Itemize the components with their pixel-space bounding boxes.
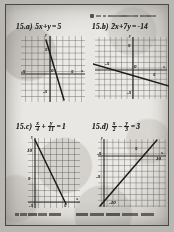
graph-15c-xtick-5: 5 — [64, 203, 67, 208]
equation-rhs: 5 — [58, 22, 62, 32]
fraction-y-over-11: y 11 — [48, 121, 56, 133]
graph-15c-ytick-10: 10 — [27, 148, 32, 153]
equation-rel: = — [52, 22, 56, 32]
problem-15c-equation: x 4 + y 11 = 1 — [35, 121, 66, 133]
equation-lhs: 2x+7y — [111, 22, 131, 32]
graph-15d-xtick-5: 5 — [135, 146, 138, 151]
equation-rel: = — [57, 122, 61, 132]
problem-15b: 15.b) 2x+7y = -14 — [92, 22, 170, 114]
fraction-denominator: 2 — [112, 126, 117, 132]
graph-15b-origin: 0 — [134, 64, 137, 69]
problem-15a-equation: 5x+y = 5 — [35, 22, 61, 32]
fraction-x-over-2: x 2 — [112, 121, 117, 133]
problem-15d: 15.d) x 2 − y 3 = 3 — [92, 121, 170, 219]
graph-15d-x-axis-label: x — [161, 151, 163, 156]
graph-15d-ytick-neg10: -10 — [109, 200, 116, 205]
graph-15a-ytick-5: 5 — [45, 47, 48, 52]
graph-15a: y x 5 -5 -5 5 0 — [19, 34, 87, 104]
worksheet-sheet: 15.a) 5x+y = 5 — [5, 4, 169, 226]
fraction-denominator: 3 — [124, 126, 129, 132]
graph-15c: y x 10 5 -5 5 — [26, 136, 82, 210]
graph-15d-xtick-neg5: -5 — [97, 151, 101, 156]
equation-operator: + — [42, 122, 46, 132]
problem-15a: 15.a) 5x+y = 5 — [16, 22, 90, 114]
equation-rhs: 1 — [62, 122, 66, 132]
problem-15c-number: 15.c) — [16, 122, 32, 132]
graph-15a-origin: 0 — [51, 68, 54, 73]
problem-15b-number: 15.b) — [92, 22, 109, 32]
graph-15c-y-axis-label: y — [31, 135, 33, 140]
fraction-denominator: 11 — [48, 126, 56, 132]
graph-15a-xtick-neg5: -5 — [21, 69, 25, 74]
header-marker-icon — [90, 14, 94, 18]
equation-rel: = — [131, 122, 135, 132]
problem-15c: 15.c) x 4 + y 11 = 1 — [16, 121, 90, 219]
fraction-denominator: 4 — [35, 126, 40, 132]
graph-15a-y-axis-label: y — [45, 33, 47, 38]
graph-15b: y x 5 -5 -5 5 0 — [93, 34, 169, 104]
header-smudge — [140, 15, 156, 17]
header-smudge — [103, 15, 106, 17]
footer-left — [15, 213, 61, 218]
footer-right-smudge — [76, 213, 160, 216]
graph-15a-xtick-5: 5 — [71, 69, 74, 74]
graph-15d-plot — [95, 136, 169, 210]
graph-15b-x-axis-label: x — [163, 65, 165, 70]
graph-15d-ytick-neg5: -5 — [96, 174, 100, 179]
problem-15d-equation: x 2 − y 3 = 3 — [111, 121, 140, 133]
footer-right — [76, 213, 160, 218]
equation-lhs: 5x+y — [35, 22, 51, 32]
graph-15d-xtick-10: 10 — [156, 156, 161, 161]
graph-15b-ytick-5: 5 — [128, 43, 131, 48]
graph-15a-x-axis-label: x — [81, 69, 83, 74]
problem-15d-label: 15.d) x 2 − y 3 = 3 — [92, 121, 170, 133]
graph-15c-xtick-neg5: -5 — [29, 203, 33, 208]
graph-15c-plot — [26, 136, 82, 210]
problem-15b-equation: 2x+7y = -14 — [111, 22, 148, 32]
graph-15c-ytick-5: 5 — [28, 176, 31, 181]
equation-rel: = — [132, 22, 136, 32]
graph-15b-xtick-neg5: -5 — [105, 61, 109, 66]
equation-operator: − — [118, 122, 123, 132]
equation-rhs: -14 — [137, 22, 148, 32]
scanned-page: 15.a) 5x+y = 5 — [0, 0, 174, 232]
header-smudge — [96, 15, 101, 17]
graph-15d-y-axis-label: y — [101, 136, 103, 141]
problem-15c-label: 15.c) x 4 + y 11 = 1 — [16, 121, 90, 133]
problem-15a-number: 15.a) — [16, 22, 33, 32]
graph-15b-ytick-neg5: -5 — [127, 90, 131, 95]
graph-15b-xtick-5: 5 — [153, 72, 156, 77]
equation-rhs: 3 — [136, 122, 140, 132]
header-smudge — [108, 15, 138, 17]
problem-15d-number: 15.d) — [92, 122, 109, 132]
graph-15d: y x -5 5 10 -5 -10 — [95, 136, 169, 210]
problem-15b-label: 15.b) 2x+7y = -14 — [92, 22, 170, 32]
fraction-y-over-3: y 3 — [124, 121, 129, 133]
problem-15a-label: 15.a) 5x+y = 5 — [16, 22, 90, 32]
footer-left-smudge — [15, 213, 61, 216]
page-header — [90, 12, 172, 19]
graph-15b-y-axis-label: y — [129, 34, 131, 39]
graph-15a-ytick-neg5: -5 — [43, 89, 47, 94]
fraction-x-over-4: x 4 — [35, 121, 40, 133]
graph-15c-x-axis-label: x — [76, 197, 78, 202]
